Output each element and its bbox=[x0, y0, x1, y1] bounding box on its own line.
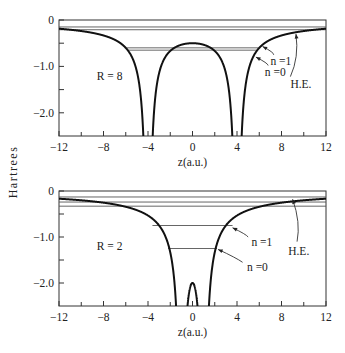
y-tick-label: 0 bbox=[48, 14, 54, 26]
y-tick-label: 0 bbox=[48, 185, 54, 197]
x-tick-label: −8 bbox=[97, 311, 109, 323]
annotation-arrow bbox=[293, 199, 299, 241]
annotation-label: n =0 bbox=[265, 66, 286, 78]
panel-r2: −12−8−4048120−1.0−2.0z(a.u.)R = 2n =1n =… bbox=[33, 185, 332, 352]
x-axis-title: z(a.u.) bbox=[178, 156, 208, 169]
x-tick-label: 12 bbox=[320, 311, 332, 323]
x-tick-label: −4 bbox=[142, 141, 154, 153]
x-tick-label: 4 bbox=[234, 141, 240, 153]
annotation-label: n =1 bbox=[251, 236, 272, 248]
annotation-label: H.E. bbox=[288, 245, 309, 257]
x-tick-label: 4 bbox=[234, 311, 240, 323]
x-axis-title: z(a.u.) bbox=[178, 326, 208, 339]
potential-segment bbox=[237, 29, 326, 183]
annotation-label: n =0 bbox=[247, 261, 268, 273]
y-tick-label: −1.0 bbox=[33, 231, 54, 243]
y-tick-label: −2.0 bbox=[33, 277, 54, 289]
panel-label: R = 2 bbox=[97, 240, 123, 252]
potential-segment bbox=[59, 199, 181, 352]
y-axis-title: Hartrees bbox=[6, 146, 20, 199]
potential-segment bbox=[204, 199, 326, 352]
x-tick-label: 0 bbox=[190, 311, 196, 323]
x-tick-label: 12 bbox=[320, 141, 332, 153]
x-tick-label: −4 bbox=[142, 311, 154, 323]
energy-levels bbox=[59, 27, 326, 50]
annotation-label: H.E. bbox=[290, 78, 311, 90]
y-tick-label: −1.0 bbox=[33, 60, 54, 72]
x-tick-label: 8 bbox=[279, 311, 285, 323]
figure: Hartrees −12−8−4048120−1.0−2.0z(a.u.)R =… bbox=[0, 0, 345, 353]
arrowhead-icon bbox=[295, 34, 299, 39]
annotation-arrow bbox=[290, 34, 296, 77]
potential-segment bbox=[59, 29, 148, 183]
x-tick-label: 8 bbox=[279, 141, 285, 153]
panel-label: R = 8 bbox=[97, 70, 123, 82]
x-tick-label: −12 bbox=[50, 311, 68, 323]
x-tick-label: −12 bbox=[50, 141, 68, 153]
x-tick-label: 0 bbox=[190, 141, 196, 153]
y-tick-label: −2.0 bbox=[33, 107, 54, 119]
panel-r8: −12−8−4048120−1.0−2.0z(a.u.)R = 8n =1n =… bbox=[33, 14, 332, 182]
x-tick-label: −8 bbox=[97, 141, 109, 153]
